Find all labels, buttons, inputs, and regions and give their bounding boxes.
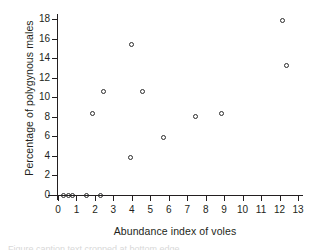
x-tick-mark [298,196,299,201]
x-tick-mark [169,196,170,201]
y-tick-label-text: 2 [4,170,50,180]
x-tick-mark [187,196,188,201]
y-tick-label-text: 16 [4,34,50,44]
x-tick-mark [206,196,207,201]
y-tick-label-text: 12 [4,73,50,83]
x-tick-mark [280,196,281,201]
y-tick-mark [52,136,57,137]
y-tick-label: 6 [0,131,50,141]
cropped-caption: Figure caption text cropped at bottom ed… [8,244,308,250]
y-tick-mark [52,97,57,98]
x-tick-label-text: 12 [270,204,290,216]
x-tick-mark [132,196,133,201]
x-tick-label-text: 6 [159,204,179,216]
x-tick-label-text: 2 [85,204,105,216]
y-tick-label: 0 [0,190,50,200]
x-tick-mark [243,196,244,201]
y-tick-label: 2 [0,170,50,180]
data-point [193,114,198,119]
data-point [219,111,224,116]
y-tick-label-text: 14 [4,53,50,63]
x-tick-label: 10 [233,204,253,216]
y-tick-label: 12 [0,73,50,83]
x-tick-label-text: 5 [140,204,160,216]
x-tick-label: 9 [214,204,234,216]
x-tick-mark [113,196,114,201]
x-tick-label-text: 4 [122,204,142,216]
x-tick-label: 3 [103,204,123,216]
y-tick-label: 18 [0,14,50,24]
x-tick-label-text: 8 [196,204,216,216]
x-tick-mark [224,196,225,201]
data-point [70,193,75,198]
x-tick-label: 1 [66,204,86,216]
x-tick-label-text: 7 [177,204,197,216]
data-point [128,155,133,160]
x-tick-mark [150,196,151,201]
x-tick-label: 7 [177,204,197,216]
y-tick-mark [52,117,57,118]
y-tick-mark [52,39,57,40]
y-tick-mark [52,19,57,20]
y-tick-mark [52,78,57,79]
x-axis-title: Abundance index of voles [45,225,305,237]
x-tick-label-text: 0 [48,204,68,216]
data-point [280,18,285,23]
x-tick-mark [58,196,59,201]
data-point [98,193,103,198]
plot-area [58,19,298,195]
x-tick-label-text: 1 [66,204,86,216]
y-tick-mark [52,195,57,196]
x-tick-label: 4 [122,204,142,216]
x-tick-label-text: 3 [103,204,123,216]
y-tick-label-text: 18 [4,14,50,24]
y-tick-label-text: 4 [4,151,50,161]
y-tick-label: 8 [0,112,50,122]
y-tick-label: 14 [0,53,50,63]
x-tick-label-text: 9 [214,204,234,216]
x-tick-label-text: 10 [233,204,253,216]
x-tick-label-text: 11 [251,204,271,216]
y-tick-label: 4 [0,151,50,161]
data-point [84,193,89,198]
scatter-plot-figure: Percentage of polygynous males 024681012… [0,0,316,250]
x-tick-label: 2 [85,204,105,216]
y-tick-label: 10 [0,92,50,102]
y-tick-label-text: 0 [4,190,50,200]
y-tick-label-text: 8 [4,112,50,122]
y-tick-label: 16 [0,34,50,44]
y-tick-label-text: 10 [4,92,50,102]
x-tick-mark [76,196,77,201]
x-tick-label: 0 [48,204,68,216]
x-tick-label: 8 [196,204,216,216]
x-tick-mark [261,196,262,201]
x-tick-label: 6 [159,204,179,216]
y-tick-mark [52,175,57,176]
x-tick-mark [95,196,96,201]
y-tick-mark [52,58,57,59]
x-tick-label-text: 13 [288,204,308,216]
data-point [101,89,106,94]
data-point [90,111,95,116]
y-tick-label-text: 6 [4,131,50,141]
x-tick-label: 11 [251,204,271,216]
x-tick-label: 13 [288,204,308,216]
y-tick-mark [52,156,57,157]
x-tick-label: 5 [140,204,160,216]
x-tick-label: 12 [270,204,290,216]
